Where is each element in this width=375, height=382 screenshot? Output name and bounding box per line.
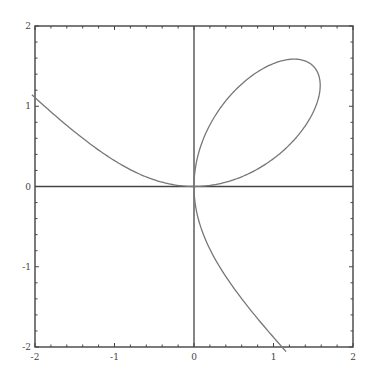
y-tick-label: 0 (25, 182, 31, 192)
x-tick-label: 1 (271, 352, 277, 362)
x-tick-label: 0 (191, 352, 197, 362)
folium-plot: -2-1012-2-1012 (0, 0, 375, 382)
x-tick-label: -1 (110, 352, 119, 362)
y-tick-label: 2 (25, 21, 31, 31)
y-tick-label: -2 (22, 342, 31, 352)
x-tick-label: 2 (350, 352, 356, 362)
y-tick-label: -1 (22, 262, 31, 272)
tick-labels: -2-1012-2-1012 (22, 21, 356, 362)
y-tick-label: 1 (25, 101, 31, 111)
x-tick-label: -2 (31, 352, 40, 362)
folium-curve (32, 59, 320, 351)
